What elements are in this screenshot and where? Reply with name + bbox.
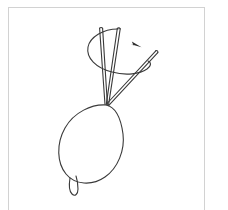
rotation-arrowhead [131, 41, 142, 47]
needle-rod-right [107, 51, 158, 106]
needle-rod-middle [106, 28, 120, 105]
figure-drawing-canvas [0, 0, 228, 210]
needle-rod-left [100, 28, 108, 105]
figure-root: Hand-drawn line diagram of a looped cord… [0, 0, 228, 210]
main-oval-loop [59, 105, 124, 183]
